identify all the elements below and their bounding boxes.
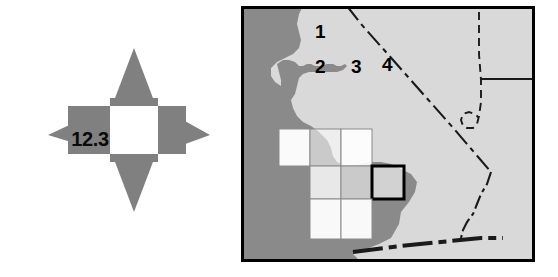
arrow-point-north <box>112 48 156 106</box>
north-arrow-panel: 12.3 <box>38 38 218 238</box>
map-panel: 1 2 3 4 <box>241 6 535 262</box>
grid-cell-top-left[interactable] <box>279 129 310 166</box>
grid-cell-4[interactable] <box>372 166 404 199</box>
north-arrow-value-label: 12.3 <box>58 122 122 156</box>
grid-cell-bottom-left[interactable] <box>310 199 341 239</box>
grid-cell-1[interactable] <box>310 129 341 166</box>
grid-cell-top-right[interactable] <box>341 129 372 166</box>
figure-root: 12.3 <box>0 0 558 277</box>
grid-cell-2[interactable] <box>310 166 341 199</box>
grid-cell-bottom-right[interactable] <box>341 199 372 239</box>
arrow-point-south <box>112 154 156 212</box>
sample-grid-overlay[interactable] <box>278 128 448 240</box>
grid-cell-3[interactable] <box>341 166 372 199</box>
